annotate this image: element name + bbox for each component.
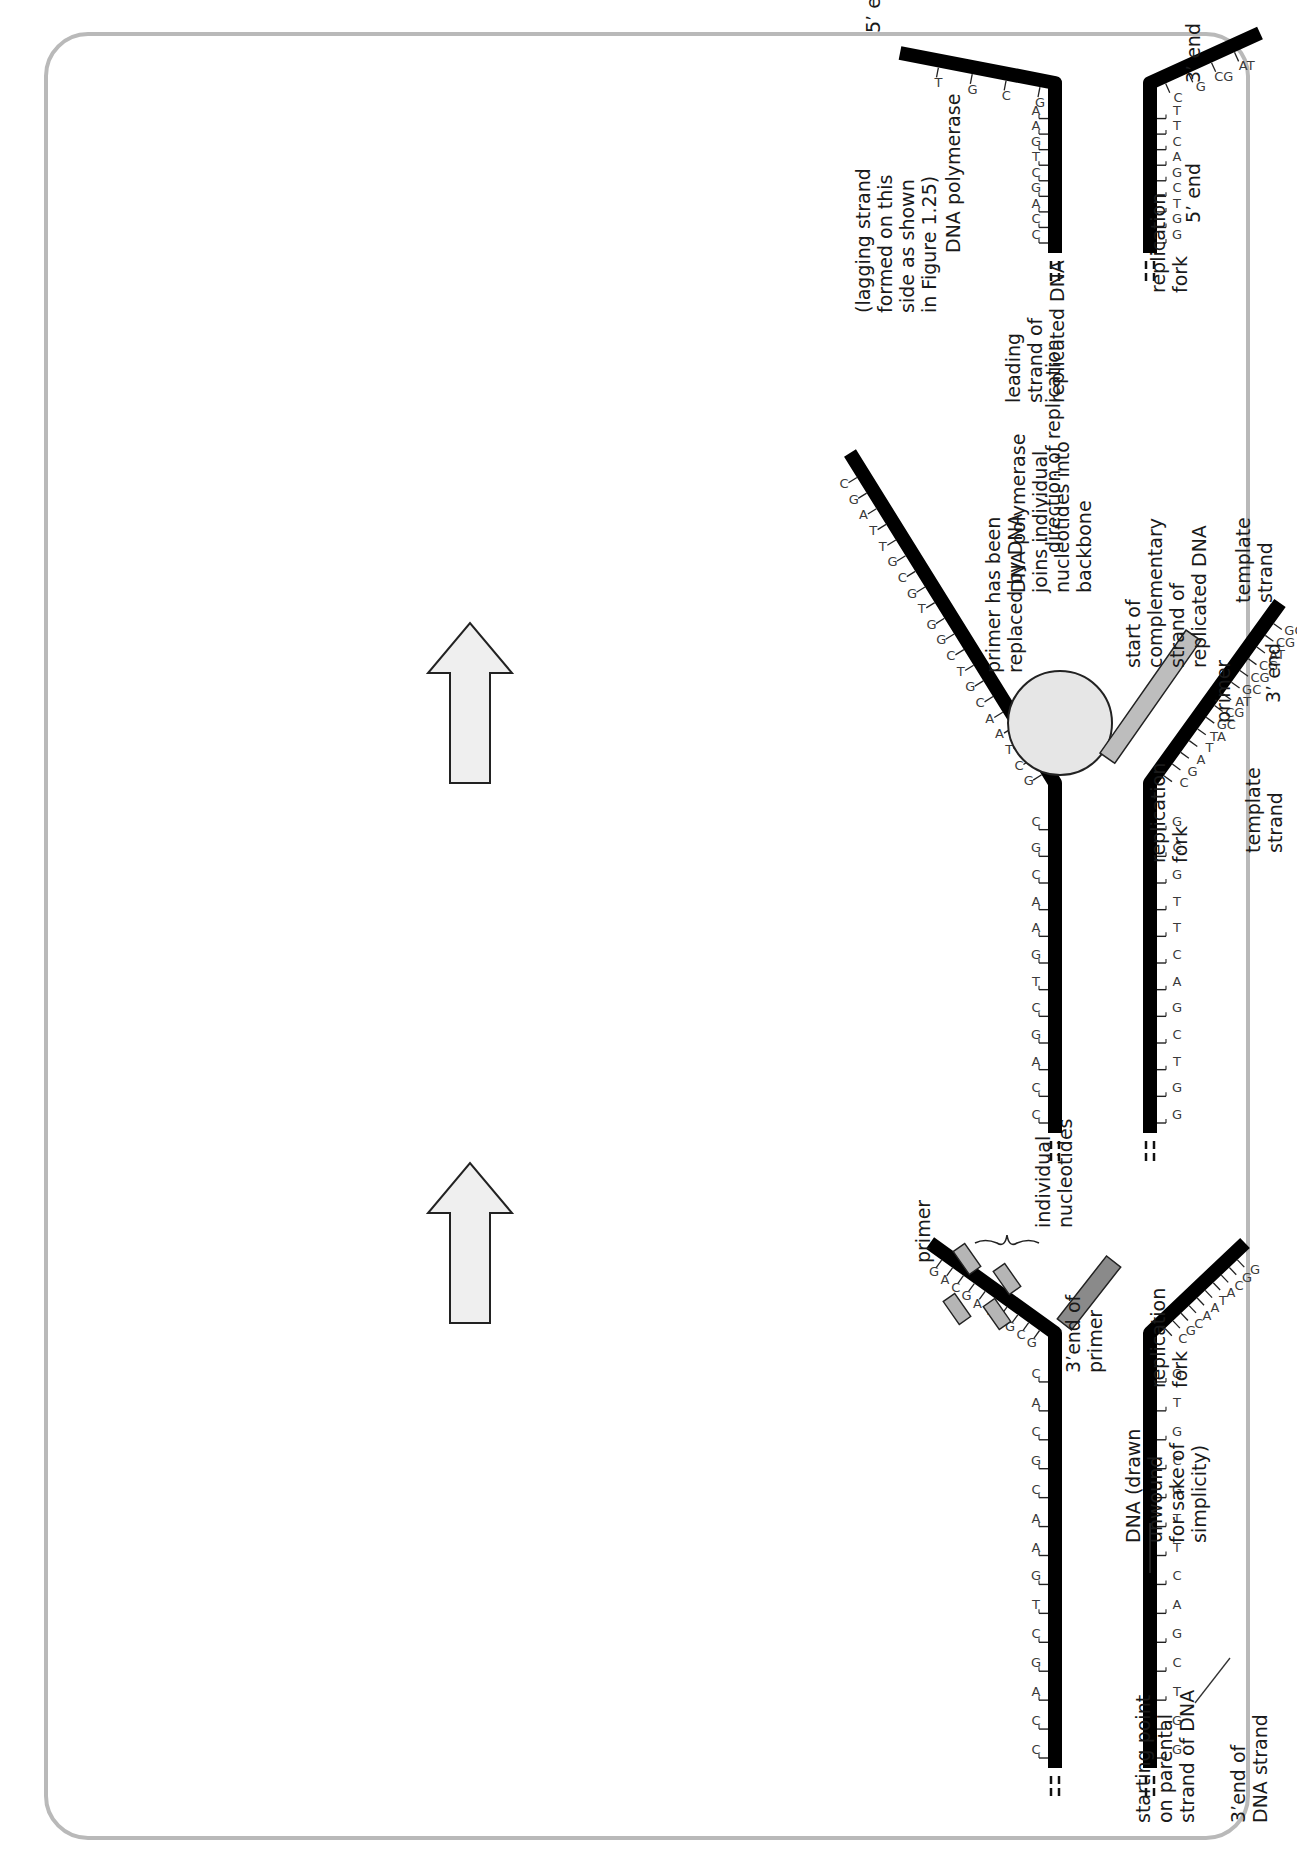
step3-upper-arm-base: G <box>1035 95 1045 110</box>
step1-lower-arm-rung <box>1237 1260 1244 1267</box>
step1-duplex-base: A <box>1032 1540 1041 1555</box>
step3-duplex-base: G <box>1172 227 1182 242</box>
label-primer-1: primer <box>912 1200 934 1263</box>
label-primer-replaced-line: primer has been <box>982 517 1004 673</box>
step2-duplex-base: A <box>1032 894 1041 909</box>
label-replication-fork-2-line: replication <box>1147 763 1169 863</box>
step2-duplex-base: C <box>1031 814 1040 829</box>
step1-upper-arm-base: G <box>962 1288 972 1303</box>
step2-upper-arm-base: T <box>868 523 877 538</box>
nucleotides-brace <box>975 1235 1039 1244</box>
label-lagging-strand-line: formed on this <box>874 175 896 313</box>
step2-upper-arm-base: T <box>956 664 965 679</box>
step2-lower-arm-rung <box>1198 729 1206 735</box>
label-3end-right-line: 3’ end <box>1262 643 1284 703</box>
label-individual-nucleotides: individualnucleotides <box>1032 1118 1076 1228</box>
label-starting-point-line: starting point <box>1132 1695 1154 1823</box>
step2-upper-arm-rung <box>955 650 963 655</box>
step2-upper-arm-base: G <box>926 617 936 632</box>
step1-duplex-base: C <box>1031 1424 1040 1439</box>
step1-upper-arm-base: G <box>929 1264 939 1279</box>
replication-diagram: GCGCTACGGCATCGTATAGCCGGCTAGCCGCAATACGGGC… <box>0 0 1297 1853</box>
step2-duplex-base: T <box>1031 974 1040 989</box>
step1-duplex-base: A <box>1032 1395 1041 1410</box>
step2-upper-arm-rung <box>887 540 895 545</box>
step2-lower-arm-rung <box>1240 670 1248 676</box>
step2-upper-arm-base: G <box>907 586 917 601</box>
label-dna-unwound-line: unwound <box>1144 1456 1166 1543</box>
label-start-complementary: start ofcomplementarystrand ofreplicated… <box>1122 518 1210 668</box>
step1-upper-arm-base: G <box>1027 1335 1037 1350</box>
step2-upper-arm-base: C <box>946 648 955 663</box>
label-starting-point: starting pointon parentalstrand of DNA <box>1132 1690 1198 1823</box>
step3-duplex-base: T <box>1172 103 1181 118</box>
step1-lower-arm-rung <box>1221 1275 1228 1282</box>
label-start-complementary-line: strand of <box>1166 581 1188 668</box>
step1-duplex-base: C <box>1031 1366 1040 1381</box>
label-starting-point-line: strand of DNA <box>1176 1690 1198 1823</box>
step1-upper-arm-base: A <box>940 1272 949 1287</box>
leader-starting-point <box>1195 1658 1230 1703</box>
label-3end-left: 3’ end <box>1182 23 1204 83</box>
step2-upper-arm-rung <box>897 556 905 561</box>
step2-upper-arm-rung <box>994 712 1002 717</box>
label-template-strand-3-line: template <box>1232 517 1254 603</box>
step-arrow-2-to-3 <box>428 623 512 783</box>
label-leading-strand-line: leading <box>1002 333 1024 403</box>
step2-duplex-base: G <box>1031 1027 1041 1042</box>
step3-duplex-base: C <box>1031 227 1040 242</box>
label-primer-replaced: primer has beenreplaced by DNA <box>982 514 1026 674</box>
label-replication-fork-3-line: replication <box>1147 193 1169 293</box>
step2-upper-arm-base: A <box>995 726 1004 741</box>
label-3end-left-line: 3’ end <box>1182 23 1204 83</box>
step3-duplex-base: G <box>1031 180 1041 195</box>
label-3end-primer-line: primer <box>1084 1310 1106 1373</box>
label-primer-2-line: primer <box>1212 660 1234 723</box>
step1-duplex-base: C <box>1031 1482 1040 1497</box>
step2-lower-arm-rung <box>1189 741 1197 747</box>
label-replication-fork-3-line: fork <box>1169 256 1191 293</box>
step2-upper-arm-base: A <box>859 507 868 522</box>
step1-duplex-base: C <box>1172 1568 1181 1583</box>
label-polymerase-joins-line: backbone <box>1073 500 1095 593</box>
step3-duplex-base: A <box>1032 118 1041 133</box>
label-replication-fork-2-line: fork <box>1169 826 1191 863</box>
label-individual-nucleotides-line: nucleotides <box>1054 1118 1076 1228</box>
label-primer-2: primer <box>1212 660 1234 723</box>
step2-upper-arm-rung <box>907 571 915 576</box>
label-dna-unwound-line: for sake of <box>1166 1442 1188 1543</box>
step1-duplex-base: T <box>1172 1395 1181 1410</box>
step3-duplex-base: G <box>1172 211 1182 226</box>
label-3end-dna-strand: 3’end ofDNA strand <box>1227 1714 1271 1823</box>
step2-upper-arm-rung <box>848 477 856 482</box>
step2-upper-arm-rung <box>965 665 973 670</box>
label-dna-unwound-line: simplicity) <box>1188 1445 1210 1543</box>
label-template-strand-2-line: strand <box>1264 792 1286 853</box>
step1-duplex-base: A <box>1032 1511 1041 1526</box>
step2-duplex-base: C <box>1031 1080 1040 1095</box>
step2-duplex-base: T <box>1172 1054 1181 1069</box>
label-replication-fork-1-line: fork <box>1169 1351 1191 1388</box>
step1-duplex-base: A <box>1173 1597 1182 1612</box>
step3-duplex-base: G <box>1031 134 1041 149</box>
label-3end-primer-line: 3’end of <box>1062 1293 1084 1373</box>
label-template-strand-3: templatestrand <box>1232 517 1276 603</box>
step1-duplex-base: C <box>1031 1742 1040 1757</box>
step3-duplex-base: G <box>1172 165 1182 180</box>
step3-duplex-base: C <box>1172 134 1181 149</box>
step1-duplex-base: T <box>1031 1597 1040 1612</box>
step2-upper-arm-rung <box>878 524 886 529</box>
step1-duplex-base: G <box>1172 1424 1182 1439</box>
step3-duplex-base: T <box>1031 149 1040 164</box>
label-starting-point-line: on parental <box>1154 1714 1176 1823</box>
label-lagging-strand-line: (lagging strand <box>852 168 874 313</box>
label-primer-1-line: primer <box>912 1200 934 1263</box>
step-arrow-1-to-2 <box>428 1163 512 1323</box>
step2-upper-arm-rung <box>975 681 983 686</box>
label-template-strand-2-line: template <box>1242 767 1264 853</box>
step2-upper-arm-base: C <box>898 570 907 585</box>
dna-polymerase-circle <box>1008 671 1112 775</box>
step2-duplex-base: T <box>1172 894 1181 909</box>
step1-duplex-base: G <box>1172 1626 1182 1641</box>
step2-upper-arm-rung <box>985 697 993 702</box>
